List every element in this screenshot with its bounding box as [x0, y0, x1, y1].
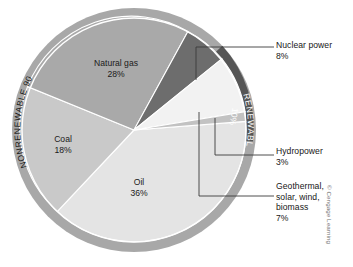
slice-label-oil: Oil 36%: [115, 177, 163, 198]
callout-label-hydropower: Hydropower 3%: [276, 146, 323, 167]
callout-label-nuclear: Nuclear power 8%: [276, 40, 332, 61]
slice-label-natural-gas: Natural gas 28%: [78, 58, 154, 79]
callout-label-geothermal: Geothermal, solar, wind, biomass 7%: [276, 181, 324, 223]
copyright-credit: © Cengage Learning: [326, 185, 333, 265]
slice-label-coal: Coal 18%: [38, 134, 88, 155]
